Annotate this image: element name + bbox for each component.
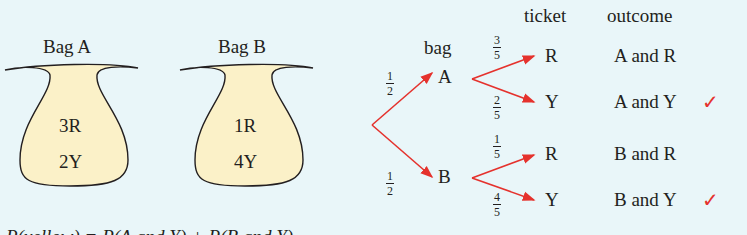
bag-b-label: Bag B — [218, 36, 266, 58]
node-b-y: Y — [545, 189, 559, 211]
prob-a-r: 35 — [493, 34, 501, 61]
outcome-b-y: B and Y — [614, 189, 677, 211]
check-icon: ✓ — [702, 90, 719, 114]
bag-a-yellow-count: 2Y — [59, 151, 82, 173]
bag-a-label: Bag A — [43, 36, 91, 58]
prob-a: 12 — [386, 70, 394, 97]
node-a-r: R — [545, 45, 558, 67]
node-b-r: R — [545, 143, 558, 165]
header-ticket: ticket — [524, 5, 566, 27]
node-b: B — [438, 166, 451, 188]
header-outcome: outcome — [607, 5, 672, 27]
prob-b-r: 15 — [493, 133, 501, 160]
outcome-a-y: A and Y — [614, 91, 677, 113]
bag-b-yellow-count: 4Y — [234, 151, 257, 173]
node-a-y: Y — [545, 91, 559, 113]
probability-equation: P(yellow) = P(A and Y) + P(B and Y) — [6, 226, 293, 235]
prob-b: 12 — [386, 170, 394, 197]
header-bag: bag — [424, 37, 451, 59]
outcome-b-r: B and R — [614, 143, 676, 165]
prob-b-y: 45 — [493, 191, 501, 218]
bag-b-red-count: 1R — [234, 115, 256, 137]
check-icon: ✓ — [702, 188, 719, 212]
bag-a-red-count: 3R — [59, 115, 81, 137]
prob-a-y: 25 — [493, 94, 501, 121]
node-a: A — [438, 66, 452, 88]
outcome-a-r: A and R — [614, 45, 676, 67]
